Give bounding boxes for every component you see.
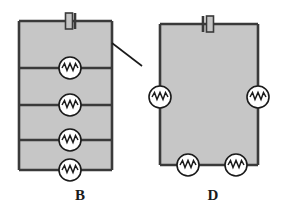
circuit-d-fill: [160, 24, 258, 165]
circuit-d: D: [149, 16, 269, 203]
circuit-b-resistor-4: [59, 159, 81, 181]
circuit-d-resistor-bottom-right: [225, 154, 247, 176]
circuit-b-label: B: [75, 187, 85, 203]
circuit-d-resistor-bottom-left: [177, 154, 199, 176]
circuit-d-label: D: [208, 187, 219, 203]
diagram-canvas: B: [0, 0, 284, 216]
circuit-b-resistor-1: [59, 57, 81, 79]
circuit-d-resistor-right: [247, 86, 269, 108]
circuit-b-resistor-2: [59, 94, 81, 116]
circuit-b-leader-line: [112, 43, 142, 66]
circuit-b-resistor-3: [59, 129, 81, 151]
circuit-b: B: [19, 13, 142, 203]
circuit-diagram-figure: B: [0, 0, 284, 216]
circuit-d-resistor-left: [149, 86, 171, 108]
